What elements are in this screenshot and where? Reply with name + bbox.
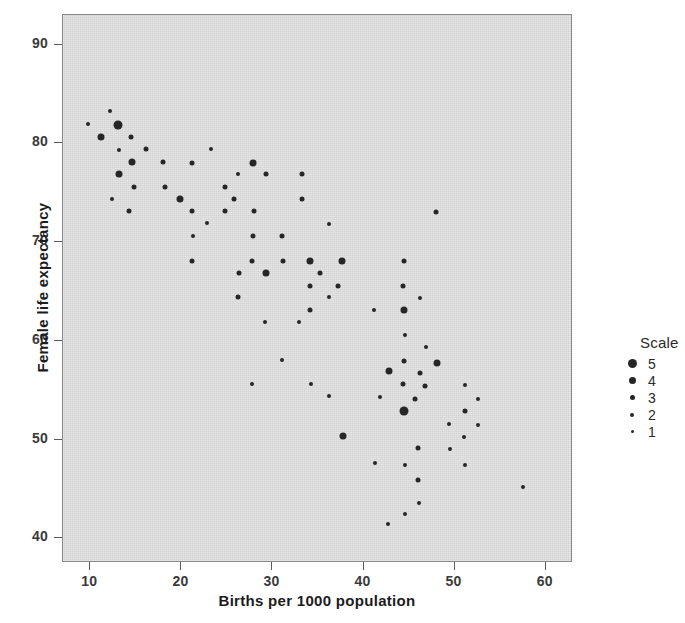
legend-title: Scale	[620, 334, 685, 351]
data-point	[400, 283, 405, 288]
x-tick-label: 50	[434, 573, 474, 589]
data-point	[176, 195, 183, 202]
data-point	[299, 171, 304, 176]
data-point	[86, 122, 90, 126]
data-point	[235, 295, 240, 300]
data-point	[327, 295, 331, 299]
data-point	[378, 395, 382, 399]
x-tick-label: 40	[343, 573, 383, 589]
data-point	[401, 258, 406, 263]
data-point	[205, 221, 209, 225]
data-point	[434, 359, 441, 366]
data-point	[236, 270, 241, 275]
data-point	[463, 383, 467, 387]
legend-label: 2	[644, 407, 656, 423]
panel-texture	[63, 15, 571, 561]
data-point	[115, 170, 122, 177]
data-point	[232, 196, 237, 201]
data-point	[339, 432, 346, 439]
data-point	[143, 147, 148, 152]
data-point	[110, 197, 114, 201]
data-point	[113, 120, 122, 129]
data-point	[372, 308, 376, 312]
data-point	[447, 422, 451, 426]
data-point	[403, 512, 407, 516]
data-point	[223, 209, 228, 214]
data-point	[108, 109, 112, 113]
legend-entries: 54321	[620, 355, 685, 440]
y-tick-mark	[54, 439, 62, 440]
x-tick-mark	[89, 562, 90, 570]
data-point	[209, 147, 213, 151]
data-point	[399, 406, 408, 415]
data-point	[338, 257, 345, 264]
data-point	[307, 283, 312, 288]
data-point	[336, 283, 341, 288]
data-point	[418, 371, 423, 376]
data-point	[373, 461, 377, 465]
data-point	[476, 397, 480, 401]
data-point	[190, 258, 195, 263]
scatter-plot-figure: 102030405060 405060708090 Births per 100…	[0, 0, 685, 623]
data-point	[250, 382, 254, 386]
legend-label: 4	[644, 373, 656, 389]
data-point	[132, 184, 137, 189]
data-point	[297, 320, 301, 324]
data-point	[161, 160, 166, 165]
data-point	[250, 258, 255, 263]
x-axis-label: Births per 1000 population	[62, 592, 572, 609]
legend: Scale 54321	[620, 334, 685, 440]
legend-entry: 2	[620, 406, 685, 423]
data-point	[476, 423, 480, 427]
data-point	[129, 159, 136, 166]
data-point	[386, 522, 390, 526]
y-tick-label: 40	[14, 528, 48, 544]
data-point	[126, 209, 131, 214]
y-tick-mark	[54, 44, 62, 45]
legend-label: 5	[644, 356, 656, 372]
data-point	[264, 171, 269, 176]
data-point	[252, 209, 257, 214]
legend-dot-icon	[620, 430, 644, 433]
data-point	[263, 269, 270, 276]
data-point	[434, 210, 439, 215]
y-axis-label: Female life expectancy	[34, 138, 51, 438]
data-point	[463, 463, 467, 467]
data-point	[299, 196, 304, 201]
data-point	[418, 296, 422, 300]
y-tick-mark	[54, 241, 62, 242]
data-point	[129, 135, 134, 140]
legend-entry: 5	[620, 355, 685, 372]
plot-data-area	[62, 14, 572, 562]
data-point	[403, 333, 407, 337]
y-tick-mark	[54, 142, 62, 143]
data-point	[263, 320, 267, 324]
data-point	[401, 358, 406, 363]
y-tick-label: 90	[14, 35, 48, 51]
data-point	[412, 397, 417, 402]
data-point	[448, 447, 452, 451]
data-point	[416, 478, 421, 483]
data-point	[424, 345, 428, 349]
data-point	[163, 184, 168, 189]
data-point	[307, 308, 312, 313]
data-point	[306, 257, 313, 264]
legend-dot-icon	[620, 395, 644, 400]
x-tick-label: 60	[525, 573, 565, 589]
data-point	[309, 382, 313, 386]
x-tick-mark	[454, 562, 455, 570]
x-tick-mark	[363, 562, 364, 570]
legend-entry: 3	[620, 389, 685, 406]
y-tick-mark	[54, 537, 62, 538]
data-point	[190, 161, 195, 166]
data-point	[400, 382, 405, 387]
data-point	[117, 148, 121, 152]
x-tick-label: 20	[160, 573, 200, 589]
data-point	[251, 234, 256, 239]
data-point	[280, 358, 284, 362]
data-point	[521, 485, 525, 489]
legend-dot-icon	[620, 377, 644, 384]
data-point	[462, 435, 466, 439]
data-point	[403, 463, 407, 467]
data-point	[462, 408, 467, 413]
